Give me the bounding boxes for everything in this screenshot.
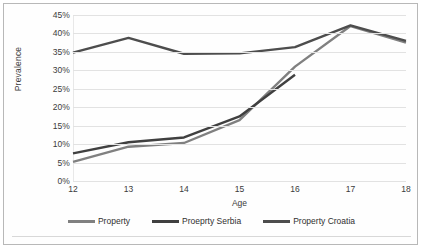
x-axis-title: Age xyxy=(73,198,406,208)
legend-item-3[interactable]: Property Croatia xyxy=(263,216,355,226)
gridline xyxy=(73,70,406,71)
gridline xyxy=(73,107,406,108)
y-tick-label: 0% xyxy=(36,176,70,186)
legend-item-1[interactable]: Property xyxy=(68,216,130,226)
y-tick-label: 10% xyxy=(36,139,70,149)
gridline xyxy=(73,33,406,34)
y-tick-label: 45% xyxy=(36,10,70,20)
x-tick-label: 13 xyxy=(124,184,133,194)
x-tick-label: 12 xyxy=(68,184,77,194)
legend-label: Property xyxy=(98,216,130,226)
gridline xyxy=(73,144,406,145)
y-tick-label: 20% xyxy=(36,102,70,112)
chart-container: Prevalence 0%5%10%15%20%25%30%35%40%45% … xyxy=(3,3,418,245)
gridline xyxy=(73,126,406,127)
legend-swatch-icon xyxy=(152,220,179,223)
series-line-3 xyxy=(73,25,406,53)
series-line-2 xyxy=(73,75,295,154)
x-tick-label: 15 xyxy=(235,184,244,194)
y-tick-label: 25% xyxy=(36,84,70,94)
chart-legend: PropertyProeprty SerbiaProperty Croatia xyxy=(4,216,419,226)
y-tick-label: 35% xyxy=(36,47,70,57)
legend-item-2[interactable]: Proeprty Serbia xyxy=(152,216,241,226)
x-tick-label: 18 xyxy=(401,184,410,194)
legend-divider xyxy=(12,236,411,237)
y-tick-label: 15% xyxy=(36,121,70,131)
gridline xyxy=(73,163,406,164)
legend-label: Property Croatia xyxy=(293,216,355,226)
y-tick-label: 40% xyxy=(36,28,70,38)
series-lines xyxy=(73,15,406,181)
gridline xyxy=(73,15,406,16)
plot-wrapper: Prevalence 0%5%10%15%20%25%30%35%40%45% … xyxy=(4,4,417,244)
gridline xyxy=(73,181,406,182)
gridline xyxy=(73,89,406,90)
y-tick-label: 30% xyxy=(36,65,70,75)
x-tick-label: 17 xyxy=(346,184,355,194)
legend-swatch-icon xyxy=(68,220,95,223)
x-tick-label: 16 xyxy=(290,184,299,194)
legend-swatch-icon xyxy=(263,220,290,223)
legend-label: Proeprty Serbia xyxy=(182,216,241,226)
x-tick-label: 14 xyxy=(179,184,188,194)
gridline xyxy=(73,52,406,53)
y-axis-title: Prevalence xyxy=(13,29,23,109)
y-axis-tick-labels: 0%5%10%15%20%25%30%35%40%45% xyxy=(32,4,70,246)
plot-area xyxy=(73,15,406,181)
series-line-1 xyxy=(73,26,406,162)
y-tick-label: 5% xyxy=(36,158,70,168)
